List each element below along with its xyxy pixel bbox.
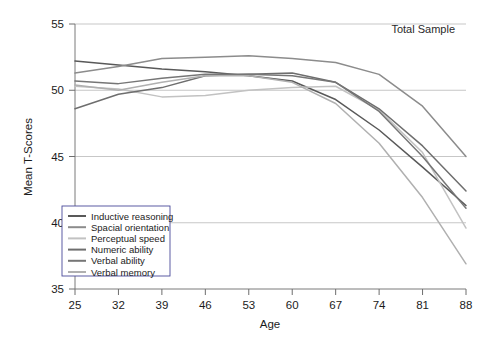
legend-label: Inductive reasoning [91, 211, 173, 222]
chart-figure: 3540455055 25323946536067748188 Mean T-S… [0, 0, 478, 343]
legend-label: Verbal ability [91, 255, 145, 266]
y-tick-label: 50 [51, 84, 64, 96]
x-tick-label: 81 [416, 299, 429, 311]
x-tick-label: 39 [155, 299, 168, 311]
legend-label: Spacial orientation [91, 222, 169, 233]
total-sample-annotation: Total Sample [391, 23, 455, 35]
y-axis-title: Mean T-Scores [22, 118, 34, 196]
y-tick-label: 35 [51, 283, 64, 295]
x-tick-label: 32 [112, 299, 125, 311]
legend-label: Numeric ability [91, 244, 154, 255]
x-tick-label: 25 [69, 299, 82, 311]
legend-label: Perceptual speed [91, 233, 165, 244]
legend-label: Verbal memory [91, 267, 155, 278]
x-axis-title: Age [260, 318, 280, 330]
y-tick-label: 55 [51, 18, 64, 30]
line-chart-svg: 3540455055 25323946536067748188 Mean T-S… [0, 0, 478, 343]
x-axis-ticks: 25323946536067748188 [69, 289, 473, 311]
x-tick-label: 74 [373, 299, 386, 311]
x-tick-label: 67 [329, 299, 342, 311]
x-tick-label: 88 [460, 299, 473, 311]
x-tick-label: 53 [242, 299, 255, 311]
gridlines [75, 24, 466, 223]
x-tick-label: 46 [199, 299, 212, 311]
x-tick-label: 60 [286, 299, 299, 311]
y-tick-label: 45 [51, 151, 64, 163]
series-line [75, 73, 466, 191]
chart-legend: Inductive reasoningSpacial orientationPe… [62, 206, 173, 278]
